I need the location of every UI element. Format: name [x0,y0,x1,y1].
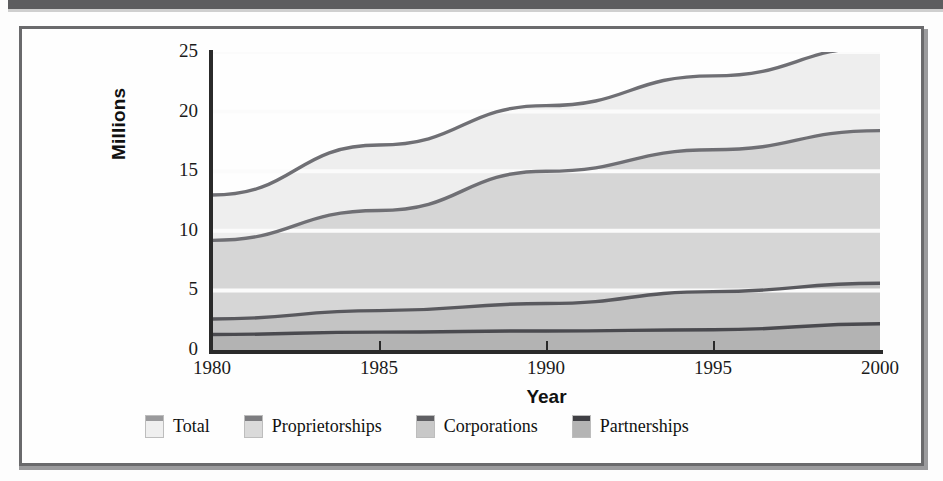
legend-item-partnerships[interactable]: Partnerships [572,415,689,438]
x-tick-label-1995: 1995 [668,357,758,379]
y-axis-title: Millions [108,88,130,160]
legend-swatch-cap-icon [417,416,434,421]
legend-swatch-partnerships-icon [572,415,591,438]
legend-swatch-corporations-icon [416,415,435,438]
legend-item-total[interactable]: Total [145,415,210,438]
y-axis-spine [209,50,213,352]
legend-label: Corporations [444,416,538,437]
x-tick-label-1990: 1990 [501,357,591,379]
y-tick-label-5: 5 [152,278,198,300]
page-top-rule [8,0,943,9]
y-tick-label-10: 10 [152,219,198,241]
x-tick-mark-1985 [379,341,381,350]
legend-item-corporations[interactable]: Corporations [416,415,538,438]
y-tick-label-20: 20 [152,100,198,122]
x-axis-spine [209,350,883,354]
x-tick-label-1985: 1985 [334,357,424,379]
legend-label: Proprietorships [272,416,382,437]
chart-legend: TotalProprietorshipsCorporationsPartners… [145,415,689,438]
legend-swatch-cap-icon [146,416,163,421]
y-tick-label-15: 15 [152,159,198,181]
legend-label: Partnerships [600,416,689,437]
legend-label: Total [173,416,210,437]
y-tick-label-25: 25 [152,40,198,62]
figure-frame-shadow-bottom [19,466,927,470]
x-tick-mark-1990 [546,341,548,350]
x-tick-mark-1995 [713,341,715,350]
figure-page: 2520151050 19801985199019952000 Millions… [0,0,943,481]
legend-item-proprietorships[interactable]: Proprietorships [244,415,382,438]
plot-area [212,52,880,350]
page-top-rule-shadow [8,9,943,12]
legend-swatch-total-icon [145,415,164,438]
legend-swatch-proprietorships-icon [244,415,263,438]
area-chart-svg [212,52,880,350]
legend-swatch-cap-icon [245,416,262,421]
legend-swatch-cap-icon [573,416,590,421]
x-tick-label-1980: 1980 [167,357,257,379]
x-tick-label-2000: 2000 [835,357,925,379]
x-axis-title: Year [0,386,943,408]
